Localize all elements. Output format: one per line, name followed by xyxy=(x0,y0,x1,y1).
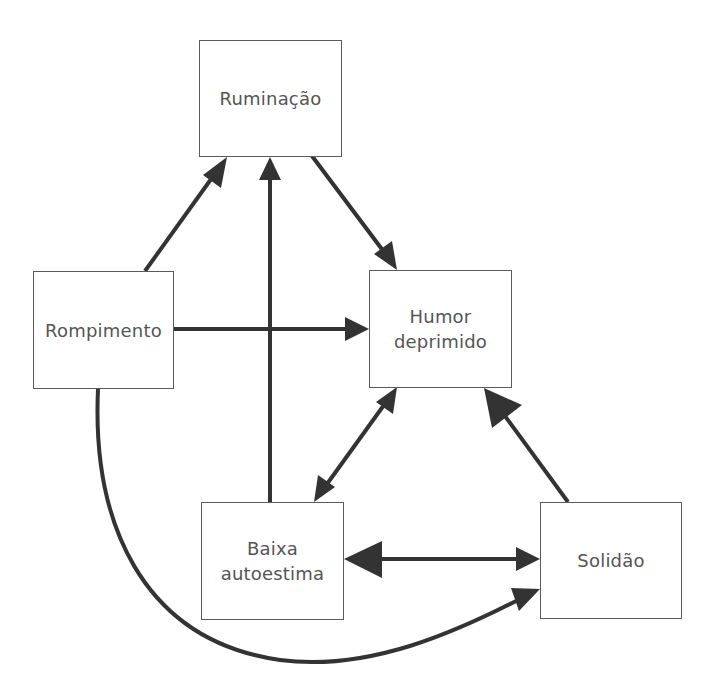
node-label: Ruminação xyxy=(220,86,322,111)
node-label: Rompimento xyxy=(45,318,162,343)
node-ruminacao: Ruminação xyxy=(199,40,342,157)
node-humor-deprimido: Humor deprimido xyxy=(369,270,512,388)
causal-diagram: Ruminação Rompimento Humor deprimido Bai… xyxy=(0,0,716,687)
edge-baixa-solidao xyxy=(344,541,540,578)
arrowhead-icon xyxy=(516,547,540,571)
node-label: Humor deprimido xyxy=(394,304,487,354)
arrowhead-icon xyxy=(511,588,540,611)
node-label: Baixa autoestima xyxy=(221,536,325,586)
node-rompimento: Rompimento xyxy=(33,271,174,389)
arrowhead-icon xyxy=(259,157,281,180)
edge-rompimento-ruminacao xyxy=(145,157,227,271)
arrowhead-icon xyxy=(344,541,382,578)
edge-ruminacao-humor xyxy=(312,156,397,270)
node-baixa-autoestima: Baixa autoestima xyxy=(201,502,344,620)
node-solidao: Solidão xyxy=(540,502,682,619)
arrowhead-icon xyxy=(484,388,522,428)
edge-solidao-humor xyxy=(484,388,568,502)
node-label: Solidão xyxy=(577,548,644,573)
arrowhead-icon xyxy=(345,317,369,341)
edge-humor-baixa xyxy=(314,387,397,502)
